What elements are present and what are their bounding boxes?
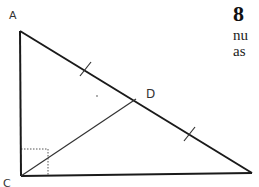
problem-text-line-1: nu bbox=[233, 28, 248, 43]
tick-mark-DB bbox=[184, 127, 195, 141]
triangle-diagram bbox=[0, 0, 259, 187]
median-CD bbox=[21, 99, 136, 176]
hypotenuse-AB bbox=[20, 31, 252, 173]
center-dot bbox=[96, 95, 98, 97]
side-AC bbox=[20, 31, 21, 176]
side-CB bbox=[21, 173, 252, 176]
vertex-label-a: A bbox=[9, 10, 17, 21]
problem-text-line-2: as bbox=[233, 44, 246, 59]
right-angle-marker bbox=[21, 149, 48, 176]
vertex-label-d: D bbox=[146, 88, 155, 100]
problem-number: 8 bbox=[233, 3, 244, 25]
vertex-label-c: C bbox=[3, 178, 11, 187]
